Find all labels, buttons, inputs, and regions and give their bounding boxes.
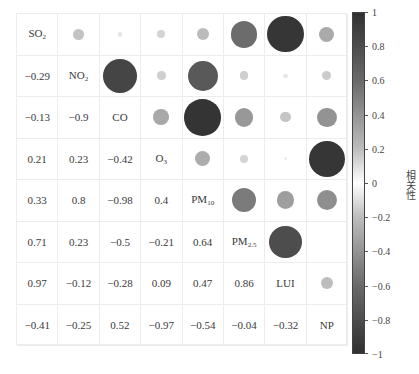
correlation-value: 0.97 (28, 277, 47, 289)
correlation-circle (118, 32, 123, 37)
correlation-circle-cell (183, 56, 224, 98)
correlation-circle (153, 109, 169, 125)
variable-label: PM10 (191, 193, 214, 207)
correlation-circle-cell (307, 139, 348, 181)
correlation-circle (267, 16, 303, 52)
correlation-circle (319, 27, 334, 42)
correlation-value-cell: −0.54 (183, 305, 224, 347)
correlation-value-cell: −0.42 (100, 139, 141, 181)
correlation-value-cell: 0.97 (17, 263, 58, 305)
correlation-circle (240, 155, 248, 163)
correlation-circle (284, 157, 287, 160)
correlation-value: 0.8 (72, 194, 86, 206)
correlation-circle (157, 71, 166, 80)
correlation-circle (326, 241, 327, 242)
correlation-circle (195, 151, 210, 166)
correlation-value: 0.21 (28, 153, 47, 165)
correlation-value: 0.64 (193, 236, 212, 248)
colorbar-tick-label: 0.4 (372, 109, 385, 120)
correlation-value: −0.9 (69, 111, 89, 123)
correlation-circle (280, 112, 290, 122)
colorbar-tick (365, 12, 368, 13)
colorbar-tick-label: −0.6 (372, 280, 390, 291)
correlation-value: 0.47 (193, 277, 212, 289)
correlation-value-cell: −0.41 (17, 305, 58, 347)
correlation-value-cell: 0.86 (224, 263, 265, 305)
correlation-value: 0.23 (69, 236, 88, 248)
variable-label: NP (320, 319, 334, 331)
colorbar-tick-label: 0.2 (372, 143, 385, 154)
correlation-value: 0.33 (28, 194, 47, 206)
correlation-value: −0.04 (231, 319, 256, 331)
correlation-circle-cell (224, 180, 265, 222)
correlation-circle-cell (183, 139, 224, 181)
correlation-circle-cell (307, 14, 348, 56)
correlation-circle (240, 71, 249, 80)
correlation-circle-cell (224, 56, 265, 98)
diagonal-label-cell: CO (100, 97, 141, 139)
correlation-value: 0.23 (69, 153, 88, 165)
correlation-value: −0.12 (66, 277, 91, 289)
correlation-circle-cell (224, 139, 265, 181)
colorbar-tick-label: 1 (372, 7, 377, 18)
variable-label: O3 (156, 152, 167, 166)
colorbar-tick-label: −0.4 (372, 246, 390, 257)
correlation-value-cell: −0.32 (265, 305, 306, 347)
correlation-value-cell: 0.23 (58, 139, 99, 181)
correlation-value-cell: −0.12 (58, 263, 99, 305)
correlation-circle-cell (100, 14, 141, 56)
correlation-circle-cell (307, 263, 348, 305)
correlation-value-cell: −0.13 (17, 97, 58, 139)
correlation-value-cell: −0.5 (100, 222, 141, 264)
correlation-value-cell: 0.64 (183, 222, 224, 264)
colorbar-tick (365, 183, 368, 184)
correlation-value-cell: −0.29 (17, 56, 58, 98)
correlation-circle (277, 191, 295, 209)
correlation-value-cell: −0.04 (224, 305, 265, 347)
variable-label: CO (112, 111, 127, 123)
correlation-circle-cell (265, 139, 306, 181)
correlation-value: −0.5 (110, 236, 130, 248)
variable-label: NO2 (69, 69, 88, 83)
correlation-circle (231, 21, 258, 48)
colorbar-tick (365, 80, 368, 81)
correlation-circle-cell (224, 14, 265, 56)
correlation-circle (197, 28, 209, 40)
correlation-circle-cell (100, 56, 141, 98)
colorbar-tick-label: 0.6 (372, 75, 385, 86)
colorbar-tick (365, 115, 368, 116)
correlation-value-cell: −0.97 (141, 305, 182, 347)
correlation-value-cell: −0.28 (100, 263, 141, 305)
correlation-value: −0.21 (149, 236, 174, 248)
correlation-value: −0.29 (24, 70, 49, 82)
correlation-circle-cell (183, 14, 224, 56)
correlation-circle-cell (307, 56, 348, 98)
correlation-value-cell: 0.4 (141, 180, 182, 222)
colorbar-tick-label: −0.8 (372, 314, 390, 325)
colorbar-tick (365, 46, 368, 47)
correlation-value: −0.13 (24, 111, 49, 123)
colorbar-tick (365, 251, 368, 252)
correlation-value-cell: −0.21 (141, 222, 182, 264)
correlation-value-cell: 0.33 (17, 180, 58, 222)
correlation-value: −0.42 (107, 153, 132, 165)
colorbar-tick (365, 217, 368, 218)
diagonal-label-cell: PM2.5 (224, 222, 265, 264)
variable-label: PM2.5 (232, 235, 257, 249)
correlation-value-cell: 0.23 (58, 222, 99, 264)
correlation-value-cell: 0.47 (183, 263, 224, 305)
correlation-circle-cell (265, 97, 306, 139)
correlation-circle-cell (265, 222, 306, 264)
colorbar-tick-label: 0.8 (372, 41, 385, 52)
colorbar-label: 相关性 (402, 170, 417, 200)
correlation-value: −0.98 (107, 194, 132, 206)
correlation-value: 0.09 (152, 277, 171, 289)
correlation-value-cell: 0.8 (58, 180, 99, 222)
colorbar-tick (365, 353, 368, 354)
correlation-value: 0.86 (234, 277, 253, 289)
correlation-value: −0.32 (273, 319, 298, 331)
correlation-circle (317, 108, 336, 127)
correlation-value: −0.25 (66, 319, 91, 331)
correlation-circle (157, 30, 165, 38)
diagonal-label-cell: NO2 (58, 56, 99, 98)
